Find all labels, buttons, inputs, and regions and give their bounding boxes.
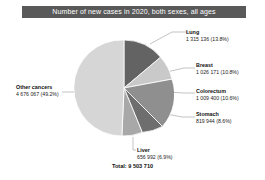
callout-lung-name: Lung	[186, 29, 229, 36]
callout-other-cancers: Other cancers 4 676 067 (49.2%)	[16, 84, 59, 98]
callout-breast: Breast 1 026 171 (10.8%)	[196, 62, 239, 76]
callout-stomach-name: Stomach	[196, 111, 231, 118]
callout-liver-name: Liver	[137, 147, 172, 154]
callout-stomach: Stomach 819 944 (8.6%)	[196, 111, 231, 125]
total-label: Total: 9 503 710	[0, 163, 265, 169]
callout-stomach-value: 819 944 (8.6%)	[196, 118, 231, 125]
callout-liver: Liver 656 992 (6.9%)	[137, 147, 172, 161]
callout-lung-value: 1 315 136 (13.8%)	[186, 36, 229, 43]
callout-colorectum-value: 1 009 400 (10.6%)	[196, 95, 239, 102]
chart-container: Number of new cases in 2020, both sexes,…	[0, 0, 265, 180]
leader-line-liver	[133, 137, 136, 150]
chart-title-bar: Number of new cases in 2020, both sexes,…	[22, 6, 246, 18]
pie-slice-other-cancers[interactable]	[74, 40, 124, 136]
pie-chart	[74, 38, 174, 138]
chart-title: Number of new cases in 2020, both sexes,…	[52, 8, 215, 16]
pie-svg	[74, 38, 174, 138]
callout-lung: Lung 1 315 136 (13.8%)	[186, 29, 229, 43]
callout-liver-value: 656 992 (6.9%)	[137, 154, 172, 161]
callout-other-cancers-name: Other cancers	[16, 84, 59, 91]
callout-colorectum-name: Colorectum	[196, 88, 239, 95]
pie-slices	[74, 40, 174, 136]
callout-colorectum: Colorectum 1 009 400 (10.6%)	[196, 88, 239, 102]
callout-breast-name: Breast	[196, 62, 239, 69]
callout-other-cancers-value: 4 676 067 (49.2%)	[16, 91, 59, 98]
callout-breast-value: 1 026 171 (10.8%)	[196, 69, 239, 76]
